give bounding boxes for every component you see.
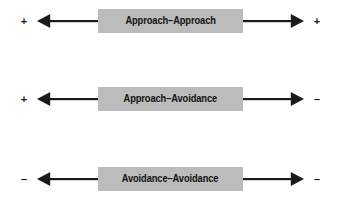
left-valence-sign: + [11,94,37,105]
conflict-type-label: Approach–Approach [125,16,215,26]
arrow-right-icon [243,90,304,108]
conflict-row: – Avoidance–Avoidance – [0,162,341,196]
arrow-left-icon [37,170,98,188]
arrow-left-icon [37,12,98,30]
conflict-type-box: Avoidance–Avoidance [98,167,243,191]
arrow-left-icon [37,90,98,108]
left-valence-sign: – [11,174,37,185]
right-valence-sign: + [304,16,330,27]
arrow-right-icon [243,12,304,30]
arrow-right-icon [243,170,304,188]
right-valence-sign: – [304,94,330,105]
conflict-row: + Approach–Approach + [0,4,341,38]
conflict-row: + Approach–Avoidance – [0,82,341,116]
conflict-types-diagram: + Approach–Approach + + Approach [0,0,341,200]
right-valence-sign: – [304,174,330,185]
conflict-type-label: Avoidance–Avoidance [122,174,219,184]
left-valence-sign: + [11,16,37,27]
conflict-type-label: Approach–Avoidance [124,94,218,104]
conflict-type-box: Approach–Avoidance [98,87,243,111]
conflict-type-box: Approach–Approach [98,9,243,33]
